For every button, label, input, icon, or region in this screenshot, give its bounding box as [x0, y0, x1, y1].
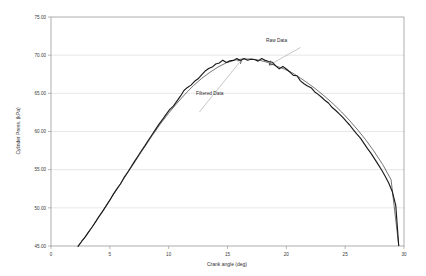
y-tick-label: 50.00 — [35, 206, 47, 211]
x-tick-label: 25 — [343, 252, 349, 257]
x-tick-label: 30 — [401, 252, 407, 257]
x-tick-label: 15 — [225, 252, 231, 257]
y-tick-label: 60.00 — [35, 129, 47, 134]
y-tick-label: 75.00 — [35, 15, 47, 20]
y-axis-title: Cylinder Press. (kPa) — [15, 107, 21, 155]
y-tick-label: 65.00 — [35, 91, 47, 96]
y-tick-label: 55.00 — [35, 167, 47, 172]
x-tick-label: 10 — [166, 252, 172, 257]
x-tick-label: 0 — [50, 252, 53, 257]
x-axis-title: Crank angle (deg) — [207, 261, 247, 267]
pressure-vs-crank-angle-chart: 45.0050.0055.0060.0065.0070.0075.00 0510… — [0, 0, 426, 276]
raw-data-label: Raw Data — [266, 38, 287, 43]
x-axis-ticks: 051015202530 — [50, 246, 407, 257]
x-tick-label: 20 — [284, 252, 290, 257]
y-axis-ticks: 45.0050.0055.0060.0065.0070.0075.00 — [35, 15, 52, 249]
x-tick-label: 5 — [109, 252, 112, 257]
chart-container: 45.0050.0055.0060.0065.0070.0075.00 0510… — [0, 0, 426, 276]
y-tick-label: 70.00 — [35, 53, 47, 58]
filtered-data-label: Filtered Data — [196, 91, 224, 96]
y-tick-label: 45.00 — [35, 244, 47, 249]
